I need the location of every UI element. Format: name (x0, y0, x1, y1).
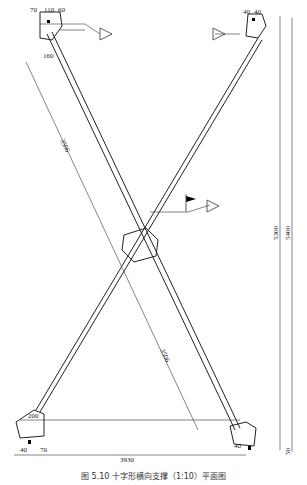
diagonal-member-b (36, 38, 262, 412)
gusset-top-right (246, 14, 266, 38)
diag-upper-label: 3506 (58, 137, 71, 154)
drawing: 70 110 60 160 40 40 200 40 70 40 3930 35… (0, 0, 307, 485)
height-outer-label: 5400 (284, 226, 292, 241)
dim-label: 40 (243, 8, 251, 16)
dim-label: 40 (234, 442, 242, 450)
bolt-top-left (47, 20, 50, 23)
diagonal-member-a (47, 32, 240, 430)
dim-label: 70 (30, 6, 38, 14)
cross-bracing-drawing: 70 110 60 160 40 40 200 40 70 40 3930 35… (0, 0, 307, 485)
diag-lower-label: 3506 (158, 347, 171, 364)
bolt-bottom-left (28, 440, 31, 444)
dim-label: 200 (28, 412, 39, 420)
bolt-bottom-right (248, 446, 251, 450)
flag-icon (186, 196, 196, 202)
side-small-label: 50 (284, 448, 292, 456)
overall-width-label: 3930 (120, 456, 135, 464)
dim-label: 70 (40, 446, 48, 454)
dim-label: 40 (20, 446, 28, 454)
bolt-top-right (252, 18, 255, 21)
dim-label: 160 (43, 52, 54, 60)
dim-label: 60 (58, 6, 66, 14)
dim-label: 40 (254, 8, 262, 16)
dim-label: 110 (44, 6, 55, 14)
gusset-top-left (40, 12, 62, 40)
height-inner-label: 5300 (272, 226, 280, 241)
figure-caption: 图 5.10 十字形横向支撑（1:10）平面图 (0, 470, 307, 481)
